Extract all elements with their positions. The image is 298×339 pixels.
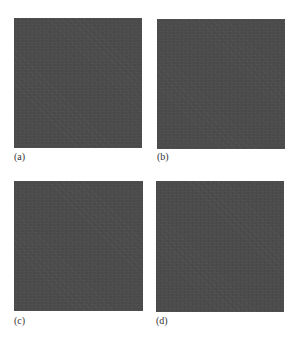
panel-b-caption-label: (b): [157, 152, 169, 162]
figure-panel-d-image: [156, 181, 284, 312]
panel-d-caption-label: (d): [156, 316, 168, 326]
figure-panel-b-image: [157, 19, 285, 149]
panel-c-caption-label: (c): [14, 316, 25, 326]
figure-panel-a-image: [14, 18, 142, 148]
figure-panel-c-image: [14, 181, 143, 311]
panel-a-caption-label: (a): [14, 152, 25, 162]
